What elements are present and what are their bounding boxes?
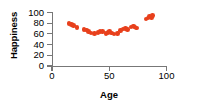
y-tick-label: 0 [0, 61, 44, 71]
y-tick [47, 55, 52, 56]
data-point [109, 31, 114, 36]
data-point [100, 29, 105, 34]
data-point [82, 27, 87, 32]
data-point [131, 24, 136, 29]
scatter-chart-figure: Happiness Age 020406080100 050100 [0, 0, 202, 108]
data-point [96, 30, 101, 35]
data-point [129, 25, 134, 30]
x-tick-label: 0 [37, 71, 67, 81]
y-tick-label: 40 [0, 40, 44, 50]
data-point [149, 15, 154, 20]
data-point [86, 29, 91, 34]
data-point [118, 28, 123, 33]
y-tick [47, 23, 52, 24]
data-point [125, 27, 130, 32]
data-point [69, 22, 74, 27]
data-point [107, 29, 112, 34]
y-tick [47, 44, 52, 45]
y-tick [47, 33, 52, 34]
data-point [123, 26, 128, 31]
data-point [112, 32, 117, 37]
y-tick-label: 100 [0, 8, 44, 18]
data-point [115, 31, 120, 36]
data-point [98, 29, 103, 34]
y-axis-line [52, 12, 53, 67]
y-tick-label: 20 [0, 50, 44, 60]
data-point [132, 25, 137, 30]
data-point [89, 31, 94, 36]
data-point [75, 25, 80, 30]
x-tick-label: 100 [152, 71, 182, 81]
x-tick-label: 50 [94, 71, 124, 81]
data-point [106, 30, 111, 35]
data-point [71, 23, 76, 28]
data-point [134, 26, 139, 31]
data-point [92, 31, 97, 36]
y-tick-label: 80 [0, 18, 44, 28]
data-point [104, 31, 109, 36]
data-point [147, 14, 152, 19]
y-tick [47, 12, 52, 13]
data-point [121, 27, 126, 32]
data-point [150, 13, 155, 18]
data-point [144, 17, 149, 22]
x-axis-title: Age [52, 89, 166, 100]
data-point [146, 16, 151, 21]
data-point [67, 21, 72, 26]
y-tick-label: 60 [0, 29, 44, 39]
data-point [84, 28, 89, 33]
